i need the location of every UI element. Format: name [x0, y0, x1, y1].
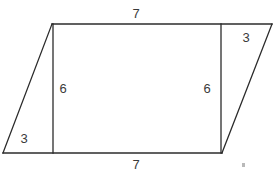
label-right-triangle-base: 3 — [242, 31, 249, 44]
label-left-height: 6 — [59, 82, 66, 95]
scan-artifact-speck — [242, 163, 245, 167]
label-bottom-side: 7 — [132, 158, 139, 171]
label-top-side: 7 — [132, 7, 139, 20]
geometry-diagram: 7 7 6 6 3 3 — [0, 0, 279, 172]
parallelogram-outline — [3, 24, 272, 153]
interior-height-segments — [53, 24, 221, 153]
label-left-triangle-base: 3 — [20, 132, 27, 145]
label-right-height: 6 — [203, 82, 210, 95]
figure-svg — [0, 0, 279, 172]
